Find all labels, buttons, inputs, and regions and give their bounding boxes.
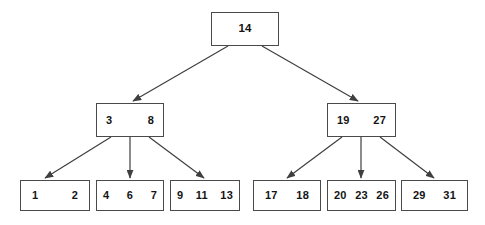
node-key: 1 — [32, 190, 38, 201]
node-keys: 91113 — [171, 190, 239, 201]
tree-node-leaf-1[interactable]: 12 — [20, 180, 90, 211]
tree-edge-internal-right-to-leaf-6 — [380, 137, 434, 178]
tree-edge-internal-left-to-leaf-1 — [45, 137, 111, 178]
tree-node-root[interactable]: 14 — [211, 12, 279, 46]
tree-edge-root-to-internal-right — [262, 46, 358, 101]
node-key: 17 — [265, 190, 278, 201]
node-key: 11 — [196, 190, 208, 201]
node-key: 4 — [103, 190, 109, 201]
node-key: 13 — [220, 190, 233, 201]
tree-edge-internal-right-to-leaf-4 — [287, 137, 342, 178]
node-key: 19 — [337, 115, 350, 126]
tree-node-internal-right[interactable]: 1927 — [327, 103, 396, 137]
node-key: 8 — [148, 115, 154, 126]
node-key: 14 — [238, 23, 251, 35]
node-keys: 2931 — [402, 190, 467, 201]
tree-node-leaf-4[interactable]: 1718 — [253, 180, 321, 211]
node-key: 3 — [106, 115, 112, 126]
node-key: 9 — [177, 190, 183, 201]
tree-node-leaf-5[interactable]: 202326 — [327, 180, 396, 211]
tree-edge-root-to-internal-left — [133, 46, 228, 101]
node-key: 26 — [376, 190, 389, 201]
node-key: 29 — [413, 190, 426, 201]
node-keys: 14 — [212, 23, 278, 35]
node-key: 6 — [127, 190, 133, 201]
node-keys: 1927 — [328, 115, 395, 126]
tree-node-leaf-2[interactable]: 467 — [96, 180, 164, 211]
node-keys: 1718 — [254, 190, 320, 201]
node-key: 20 — [334, 190, 347, 201]
node-key: 27 — [373, 115, 386, 126]
tree-node-internal-left[interactable]: 38 — [96, 103, 164, 137]
node-key: 7 — [151, 190, 157, 201]
tree-node-leaf-6[interactable]: 2931 — [401, 180, 468, 211]
node-keys: 38 — [97, 115, 163, 126]
node-key: 18 — [296, 190, 309, 201]
node-key: 23 — [355, 190, 368, 201]
node-keys: 202326 — [328, 190, 395, 201]
tree-edge-internal-left-to-leaf-3 — [149, 137, 204, 178]
node-keys: 467 — [97, 190, 163, 201]
node-keys: 12 — [21, 190, 89, 201]
node-key: 31 — [443, 190, 456, 201]
btree-diagram: 14381927124679111317182023262931 — [0, 0, 485, 225]
tree-node-leaf-3[interactable]: 91113 — [170, 180, 240, 211]
node-key: 2 — [72, 190, 78, 201]
